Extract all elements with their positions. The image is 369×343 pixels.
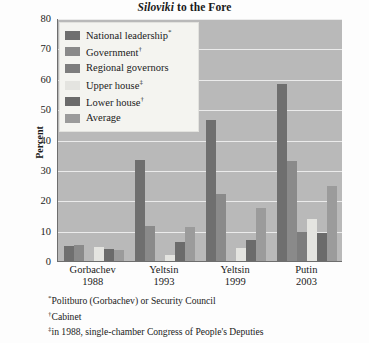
x-axis-leader-name: Putin bbox=[271, 264, 342, 276]
y-tick-label: 50 bbox=[16, 105, 51, 116]
bar bbox=[114, 250, 124, 261]
legend-item: Lower house† bbox=[65, 93, 192, 110]
legend-item-label: Upper house‡ bbox=[86, 79, 143, 91]
legend-swatch-icon bbox=[65, 97, 80, 106]
footnote-text: in 1988, single-chamber Congress of Peop… bbox=[52, 326, 264, 337]
bar bbox=[206, 120, 216, 261]
legend-item: National leadership* bbox=[65, 27, 192, 44]
bar bbox=[327, 186, 337, 261]
legend-item-label: Lower house† bbox=[86, 96, 144, 108]
legend-item-label: Regional governors bbox=[86, 63, 169, 74]
x-axis-group-label: Yeltsin1999 bbox=[200, 264, 271, 288]
x-axis-year: 1999 bbox=[200, 276, 271, 288]
footnote-text: Politburo (Gorbachev) or Security Counci… bbox=[52, 295, 216, 306]
x-axis: Gorbachev1988Yeltsin1993Yeltsin1999Putin… bbox=[57, 264, 342, 288]
bar bbox=[317, 233, 327, 261]
legend-swatch-icon bbox=[65, 114, 80, 123]
footnote: †Cabinet bbox=[48, 308, 368, 324]
bar bbox=[64, 246, 74, 261]
legend-item-label: National leadership* bbox=[86, 29, 171, 41]
bar bbox=[307, 219, 317, 261]
title-emphasis: Siloviki bbox=[137, 1, 174, 13]
legend-footnote-marker: † bbox=[141, 95, 145, 103]
x-axis-year: 1993 bbox=[128, 276, 199, 288]
legend-swatch-icon bbox=[65, 47, 80, 56]
bar bbox=[94, 247, 104, 261]
page-title: Siloviki to the Fore bbox=[0, 1, 369, 13]
y-tick-label: 0 bbox=[16, 257, 51, 268]
bar bbox=[287, 161, 297, 261]
bar bbox=[246, 240, 256, 261]
y-tick-label: 60 bbox=[16, 75, 51, 86]
legend-footnote-marker: * bbox=[168, 28, 172, 36]
legend-footnote-marker: † bbox=[139, 45, 143, 53]
x-axis-year: 1988 bbox=[57, 276, 128, 288]
y-tick-label: 40 bbox=[16, 135, 51, 146]
y-tick-label: 10 bbox=[16, 226, 51, 237]
title-rest: to the Fore bbox=[174, 1, 232, 13]
footnote: *Politburo (Gorbachev) or Security Counc… bbox=[48, 292, 368, 308]
x-axis-leader-name: Yeltsin bbox=[128, 264, 199, 276]
legend-item: Regional governors bbox=[65, 60, 192, 77]
footnote-text: Cabinet bbox=[52, 311, 82, 322]
y-axis: Percent 80706050403020100 bbox=[20, 19, 55, 262]
y-tick-label: 30 bbox=[16, 166, 51, 177]
footnote: ‡in 1988, single-chamber Congress of Peo… bbox=[48, 323, 368, 339]
x-axis-group-label: Yeltsin1993 bbox=[128, 264, 199, 288]
bar bbox=[297, 232, 307, 261]
bar bbox=[104, 249, 114, 261]
legend-item: Government† bbox=[65, 44, 192, 61]
y-tick-label: 80 bbox=[16, 14, 51, 25]
x-axis-group-label: Putin2003 bbox=[271, 264, 342, 288]
legend-item: Average bbox=[65, 110, 192, 127]
footnotes: *Politburo (Gorbachev) or Security Counc… bbox=[48, 292, 368, 339]
bar bbox=[216, 194, 226, 261]
legend-footnote-marker: ‡ bbox=[139, 78, 143, 86]
bar bbox=[74, 245, 84, 261]
bar bbox=[256, 208, 266, 261]
legend-swatch-icon bbox=[65, 31, 80, 40]
legend: National leadership*Government†Regional … bbox=[59, 22, 199, 132]
legend-swatch-icon bbox=[65, 81, 80, 90]
x-axis-leader-name: Gorbachev bbox=[57, 264, 128, 276]
bar-group bbox=[271, 19, 342, 261]
bar bbox=[236, 248, 246, 261]
bar bbox=[165, 255, 175, 261]
legend-item-label: Average bbox=[86, 113, 121, 124]
legend-item: Upper house‡ bbox=[65, 77, 192, 94]
y-tick-label: 20 bbox=[16, 196, 51, 207]
y-tick-label: 70 bbox=[16, 44, 51, 55]
chart-page: Siloviki to the Fore Percent 80706050403… bbox=[0, 0, 369, 343]
legend-item-label: Government† bbox=[86, 46, 142, 58]
x-axis-year: 2003 bbox=[271, 276, 342, 288]
x-axis-group-label: Gorbachev1988 bbox=[57, 264, 128, 288]
bar bbox=[145, 226, 155, 261]
bar bbox=[277, 84, 287, 261]
bar-group bbox=[200, 19, 271, 261]
x-axis-leader-name: Yeltsin bbox=[200, 264, 271, 276]
legend-swatch-icon bbox=[65, 64, 80, 73]
bar bbox=[185, 227, 195, 261]
bar bbox=[175, 242, 185, 261]
bar bbox=[135, 160, 145, 261]
